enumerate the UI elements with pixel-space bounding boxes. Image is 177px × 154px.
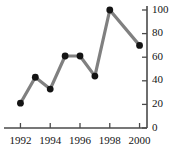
- data-point-marker: [47, 86, 54, 93]
- y-tick-label: 40: [152, 73, 164, 85]
- data-point-marker: [136, 42, 143, 49]
- x-tick-label: 1998: [99, 134, 122, 146]
- data-series-markers: [17, 7, 143, 107]
- chart-canvas: 020406080100 19921994199619982000: [0, 0, 177, 154]
- x-axis-labels: 19921994199619982000: [9, 134, 151, 146]
- line-chart: 020406080100 19921994199619982000: [0, 0, 177, 154]
- y-tick-label: 100: [152, 3, 169, 15]
- y-tick-label: 60: [152, 50, 164, 62]
- x-tick-label: 1996: [69, 134, 92, 146]
- data-point-marker: [17, 100, 24, 107]
- data-point-marker: [106, 7, 113, 14]
- plot-area: 020406080100 19921994199619982000: [0, 0, 177, 154]
- x-tick-label: 2000: [129, 134, 152, 146]
- y-axis-labels: 020406080100: [152, 3, 169, 133]
- data-point-marker: [91, 73, 98, 80]
- x-tick-label: 1994: [39, 134, 62, 146]
- y-tick-label: 80: [152, 26, 164, 38]
- y-tick-label: 0: [152, 121, 158, 133]
- y-tick-label: 20: [152, 97, 164, 109]
- data-point-marker: [77, 53, 84, 60]
- data-point-marker: [32, 74, 39, 81]
- x-tick-label: 1992: [9, 134, 31, 146]
- data-point-marker: [62, 53, 69, 60]
